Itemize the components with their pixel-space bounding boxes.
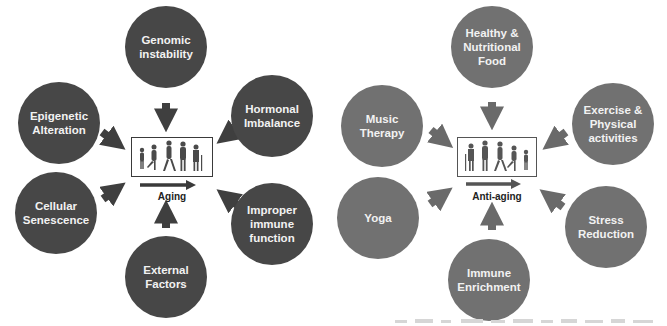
factor-genomic-instability: Genomic instability [125, 6, 207, 88]
arrows-layer [0, 0, 667, 326]
factor-music-therapy: Music Therapy [341, 85, 423, 167]
factor-stress-reduction: Stress Reduction [565, 186, 647, 268]
aging-label: Aging [131, 191, 213, 202]
arrow-diag-icon [430, 196, 441, 204]
arrow-diag-icon [102, 132, 114, 141]
factor-epigenetic-alteration: Epigenetic Alteration [18, 82, 100, 164]
anti-aging-figure-box [457, 137, 537, 177]
factor-exercise-physical-activities: Exercise & Physical activities [572, 83, 654, 165]
factor-healthy-nutritional-food: Healthy & Nutritional Food [451, 6, 533, 88]
arrow-diag-icon [103, 191, 114, 199]
human-aging-silhouettes-icon [132, 138, 211, 175]
human-anti-aging-silhouettes-icon [458, 138, 535, 175]
factor-immune-enrichment: Immune Enrichment [448, 239, 530, 321]
anti-aging-label: Anti-aging [452, 191, 542, 202]
factor-hormonal-imbalance: Hormonal Imbalance [231, 75, 313, 157]
factor-yoga: Yoga [337, 177, 419, 259]
factor-cellular-senescence: Cellular Senescence [15, 172, 97, 254]
arrow-diag-icon [551, 198, 563, 207]
arrow-diag-icon [431, 130, 442, 139]
aging-figure-box [131, 137, 213, 177]
arrow-diag-icon [554, 132, 566, 141]
cropped-caption-remnant [395, 314, 667, 326]
factor-improper-immune-function: Improper immune function [231, 183, 313, 265]
factor-external-factors: External Factors [125, 236, 207, 318]
